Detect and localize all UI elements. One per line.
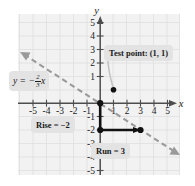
x-tick-label: -2 <box>70 106 78 116</box>
y-tick-label: -2 <box>87 125 95 135</box>
x-tick-label: 3 <box>138 106 143 116</box>
point-test <box>111 87 117 93</box>
x-tick-label: -5 <box>29 106 37 116</box>
y-axis-name: y <box>93 5 99 16</box>
equation-prefix: y = − <box>13 76 35 86</box>
rise-label: Rise = −2 <box>31 117 75 133</box>
x-tick-label: 4 <box>152 106 157 116</box>
y-tick-label: -1 <box>87 112 95 122</box>
equation-suffix: x <box>41 76 45 86</box>
x-axis-name: x <box>178 98 184 109</box>
equation-fraction: 23 <box>35 74 40 88</box>
run-label: Run = 3 <box>91 143 130 159</box>
x-tick-label: 5 <box>165 106 170 116</box>
x-tick-label: -3 <box>56 106 64 116</box>
y-tick-label: 3 <box>90 45 95 55</box>
y-tick-label: -5 <box>87 166 95 176</box>
x-tick-label: 2 <box>125 106 130 116</box>
y-tick-label: 2 <box>90 58 95 68</box>
equation-label: y = −23x <box>9 71 49 91</box>
test-point-label: Test point: (1, 1) <box>104 45 173 61</box>
graph-figure: -5 -4 -3 -2 -1 1 2 3 4 5 5 4 3 2 1 -1 -2… <box>0 0 195 186</box>
y-tick-label: 1 <box>90 72 95 82</box>
x-tick-label: 1 <box>111 106 116 116</box>
point-rise-end <box>97 127 103 133</box>
point-run-end <box>137 127 143 133</box>
y-tick-label: 4 <box>90 31 95 41</box>
equation-denominator: 3 <box>35 81 40 89</box>
equation-numerator: 2 <box>35 74 40 81</box>
x-tick-label: -4 <box>43 106 51 116</box>
y-tick-label: 5 <box>90 18 95 28</box>
point-origin <box>97 100 103 106</box>
